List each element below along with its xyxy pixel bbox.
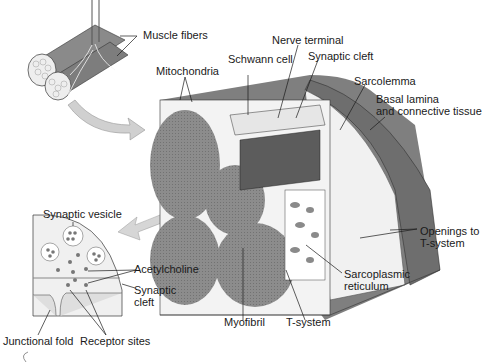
label-sarcoplasmic-line2: reticulum — [344, 280, 389, 292]
label-nerve-terminal: Nerve terminal — [272, 34, 344, 46]
label-openings-line1: Openings to — [420, 225, 479, 237]
label-openings-line2: T-system — [420, 237, 465, 249]
label-t-system: T-system — [286, 316, 331, 328]
label-junctional-fold: Junctional fold — [3, 335, 73, 347]
synapse-inset — [33, 215, 122, 316]
label-schwann-cell: Schwann cell — [228, 53, 293, 65]
muscle-fiber-bundle — [28, 0, 128, 100]
label-receptor-sites: Receptor sites — [80, 335, 150, 347]
label-sarcoplasmic-line1: Sarcoplasmic — [344, 268, 410, 280]
label-synaptic-vesicle: Synaptic vesicle — [43, 208, 122, 220]
corner-mark-icon — [23, 352, 28, 362]
label-mitochondria: Mitochondria — [156, 65, 219, 77]
label-basal-lamina-line2: and connective tissue — [376, 105, 482, 117]
label-synaptic-cleft: Synaptic cleft — [308, 50, 373, 62]
label-myofibril: Myofibril — [224, 316, 265, 328]
zoom-arrow-top — [68, 100, 145, 140]
label-basal-lamina-line1: Basal lamina — [376, 93, 439, 105]
label-acetylcholine: Acetylcholine — [134, 263, 199, 275]
label-synaptic-cleft-inset-line1: Synaptic — [134, 284, 176, 296]
label-muscle-fibers: Muscle fibers — [143, 29, 208, 41]
label-synaptic-cleft-inset-line2: cleft — [134, 296, 154, 308]
label-sarcolemma: Sarcolemma — [354, 75, 416, 87]
